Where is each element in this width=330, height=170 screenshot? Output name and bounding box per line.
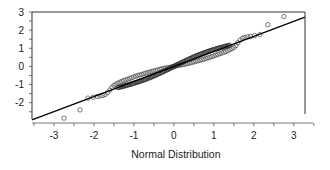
y-tick-label: 2 <box>18 25 24 36</box>
x-tick-label: -1 <box>129 130 138 141</box>
x-tick-label: 0 <box>171 130 177 141</box>
data-point <box>62 116 66 120</box>
qq-plot-chart: -3-2-10123 -2-10123 Normal Distribution <box>0 0 330 170</box>
x-tick-label: -2 <box>90 130 99 141</box>
x-axis-title: Normal Distribution <box>131 148 220 160</box>
x-tick-label: 2 <box>251 130 257 141</box>
y-axis: -2-10123 <box>15 7 32 112</box>
y-tick-label: 1 <box>18 43 24 54</box>
data-point <box>266 23 270 27</box>
y-tick-label: 0 <box>18 61 24 72</box>
plot-frame <box>32 12 305 114</box>
x-tick-label: 3 <box>291 130 297 141</box>
y-tick-label: -1 <box>15 79 24 90</box>
data-point <box>282 14 286 18</box>
x-tick-label: -3 <box>50 130 59 141</box>
y-tick-label: -2 <box>15 97 24 108</box>
data-point <box>78 108 82 112</box>
y-tick-label: 3 <box>18 7 24 18</box>
reference-line <box>32 17 305 120</box>
x-axis: -3-2-10123 <box>32 123 314 141</box>
x-tick-label: 1 <box>211 130 217 141</box>
data-points <box>62 14 286 120</box>
